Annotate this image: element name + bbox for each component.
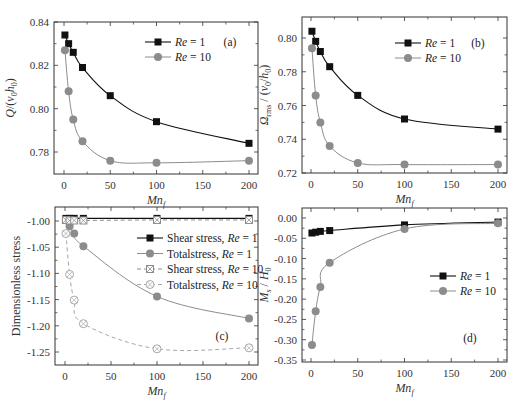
figure: 0501001502000.780.800.820.84MnfQ/(v0h0)R… [0, 0, 519, 414]
series-re-10 [61, 46, 253, 167]
data-point [494, 219, 502, 227]
y-tick-label: 0.78 [30, 146, 50, 158]
data-point [326, 227, 333, 234]
data-point [245, 314, 253, 322]
data-point [246, 140, 253, 147]
y-tick-label: -1.05 [27, 241, 50, 253]
data-point [317, 228, 324, 235]
legend-label: Totalstress, Re = 1 [167, 248, 252, 261]
x-tick-label: 100 [396, 178, 413, 190]
data-point [61, 32, 68, 39]
y-tick-label: 0.80 [278, 32, 298, 44]
data-point [354, 92, 361, 99]
y-tick-label: 0.72 [278, 167, 297, 179]
legend: Re = 1Re = 10 [395, 37, 461, 64]
panel-b: 0501001502000.720.740.760.780.80MnfΩrms … [257, 17, 507, 208]
data-point [312, 91, 320, 99]
data-point [65, 87, 73, 95]
x-tick-label: 200 [490, 178, 507, 190]
y-tick-label: -1.20 [27, 320, 50, 332]
panel-label: (b) [471, 37, 485, 50]
x-tick-label: 50 [105, 179, 117, 191]
data-point [401, 116, 408, 123]
x-tick-label: 200 [490, 367, 507, 379]
panel-label: (d) [463, 332, 477, 345]
legend-marker [404, 54, 412, 62]
x-tick-label: 150 [195, 370, 212, 382]
legend-marker [439, 287, 447, 295]
chart-canvas: 0501001502000.780.800.820.84MnfQ/(v0h0)R… [0, 0, 519, 414]
y-tick-label: 0.78 [278, 66, 298, 78]
data-point [312, 38, 319, 45]
x-tick-label: 150 [195, 179, 212, 191]
legend-marker [147, 235, 154, 242]
data-point [494, 161, 502, 169]
x-tick-label: 50 [352, 367, 364, 379]
data-point [70, 230, 78, 238]
legend-label: Re = 1 [459, 270, 490, 282]
data-point [354, 159, 362, 167]
panel-label: (c) [216, 330, 229, 343]
data-point [70, 49, 77, 56]
legend: Re = 1Re = 10 [430, 270, 496, 297]
data-point [326, 259, 334, 267]
data-point [79, 137, 87, 145]
data-point [153, 118, 160, 125]
y-tick-label: -0.05 [274, 232, 297, 244]
data-point [308, 341, 316, 349]
y-tick-label: -0.20 [274, 293, 297, 305]
data-point [326, 63, 333, 70]
data-point [107, 92, 114, 99]
data-point [317, 48, 324, 55]
data-point [106, 157, 114, 165]
y-axis-label: Ms / H0 [257, 267, 273, 303]
data-point [401, 161, 409, 169]
x-axis-label: Mnf [146, 384, 167, 400]
x-tick-label: 0 [308, 367, 314, 379]
x-tick-label: 100 [396, 367, 413, 379]
x-axis-label: Mnf [394, 381, 415, 397]
data-point [79, 64, 86, 71]
y-axis-label: Ωrms / (v0/h0) [257, 65, 273, 126]
x-tick-label: 0 [61, 179, 67, 191]
data-point [245, 157, 253, 165]
legend-marker [440, 273, 447, 280]
y-tick-label: -1.00 [27, 215, 50, 227]
data-point [308, 28, 315, 35]
panel-c: 050100150200-1.25-1.20-1.15-1.10-1.05-1.… [9, 207, 264, 400]
y-tick-label: 0.74 [278, 133, 298, 145]
y-axis-label: Q/(v0h0) [3, 78, 19, 117]
data-point [308, 44, 316, 52]
series-re-1 [61, 32, 252, 147]
data-point [153, 292, 161, 300]
y-tick-label: 0.82 [30, 59, 49, 71]
x-tick-label: 200 [241, 370, 258, 382]
x-tick-label: 50 [106, 370, 118, 382]
legend-label: Re = 10 [424, 52, 461, 64]
y-tick-label: -1.25 [27, 346, 50, 358]
legend: Re = 1Re = 10 [145, 36, 211, 63]
legend-label: Shear stress, Re = 10 [167, 263, 264, 276]
y-tick-label: -1.15 [27, 294, 50, 306]
panel-d: 050100150200-0.35-0.30-0.25-0.20-0.15-0.… [257, 208, 507, 397]
data-point [316, 118, 324, 126]
x-tick-label: 100 [148, 179, 165, 191]
series-shear-stress-re-10 [62, 216, 252, 224]
y-tick-label: -0.10 [274, 253, 297, 265]
y-tick-label: -0.25 [274, 313, 297, 325]
y-tick-label: -1.10 [27, 267, 50, 279]
x-tick-label: 150 [443, 178, 460, 190]
data-point [401, 225, 409, 233]
y-tick-label: -0.35 [274, 354, 297, 366]
legend-label: Re = 10 [174, 51, 211, 63]
x-tick-label: 0 [308, 178, 314, 190]
y-tick-label: 0.84 [30, 16, 50, 28]
y-tick-label: 0.76 [278, 100, 298, 112]
data-point [69, 116, 77, 124]
series-re-10 [308, 44, 502, 168]
legend-marker [154, 53, 162, 61]
legend-label: Shear stress, Re = 1 [167, 232, 258, 245]
x-tick-label: 0 [62, 370, 68, 382]
legend-marker [146, 250, 154, 258]
data-point [65, 40, 72, 47]
